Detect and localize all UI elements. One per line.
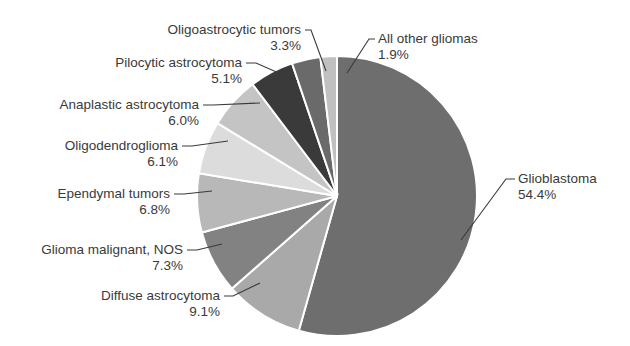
slice-label-percent: 6.8% xyxy=(139,202,170,217)
slice-label-percent: 7.3% xyxy=(152,258,183,273)
slice-label-percent: 5.1% xyxy=(211,71,242,86)
slice-label-name: Oligodendroglioma xyxy=(65,138,179,153)
slice-label-name: Anaplastic astrocytoma xyxy=(59,97,199,112)
slice-label-name: Glioblastoma xyxy=(518,171,597,186)
slice-label-name: Ependymal tumors xyxy=(57,186,170,201)
slice-label-name: Glioma malignant, NOS xyxy=(41,242,183,257)
slice-label-name: Oligoastrocytic tumors xyxy=(167,22,301,37)
pie-slices xyxy=(197,56,477,336)
pie-chart-canvas: Glioblastoma54.4%Diffuse astrocytoma9.1%… xyxy=(0,0,630,346)
glioma-pie-chart: Glioblastoma54.4%Diffuse astrocytoma9.1%… xyxy=(0,0,630,346)
slice-label-name: Diffuse astrocytoma xyxy=(101,288,221,303)
slice-label-percent: 9.1% xyxy=(189,304,220,319)
slice-label-name: All other gliomas xyxy=(378,31,478,46)
slice-label-percent: 54.4% xyxy=(518,187,556,202)
slice-label-percent: 6.1% xyxy=(147,154,178,169)
slice-label-percent: 6.0% xyxy=(168,113,199,128)
slice-label-percent: 1.9% xyxy=(378,47,409,62)
slice-label-percent: 3.3% xyxy=(270,38,301,53)
slice-label-name: Pilocytic astrocytoma xyxy=(115,55,242,70)
